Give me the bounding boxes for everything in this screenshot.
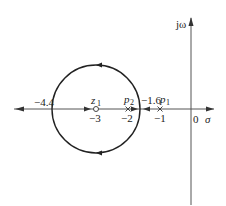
root-locus-diagram: jω σ 0 −4.4 −1.6 z 1 −3 p 2 −2 p 1 −1 — [0, 0, 226, 206]
real-axis-label: σ — [205, 113, 211, 125]
breakpoint-left-label: −4.4 — [34, 96, 54, 108]
pole1-value-label: −1 — [154, 112, 166, 124]
circle-bottom-arrow-icon — [96, 151, 102, 156]
zero-value-label: −3 — [89, 112, 101, 124]
pole2-sub-label: 2 — [130, 98, 134, 107]
arrow-p2-right-icon — [131, 107, 138, 112]
sigma-arrow-icon — [206, 107, 214, 112]
pole2-name-label: p — [123, 93, 130, 105]
origin-label: 0 — [193, 113, 199, 125]
imag-axis-label: jω — [175, 18, 186, 30]
arrow-to-zero-icon — [84, 107, 91, 112]
left-arrow-icon — [15, 107, 24, 112]
zero-name-label: z — [90, 94, 96, 106]
zero-sub-label: 1 — [97, 99, 101, 108]
pole1-name-label: p — [159, 93, 166, 105]
pole2-value-label: −2 — [121, 112, 133, 124]
breakpoint-right-label: −1.6 — [141, 94, 161, 106]
pole1-sub-label: 1 — [166, 98, 170, 107]
arrow-p1-left-icon — [143, 107, 150, 112]
jw-arrow-icon — [189, 17, 194, 26]
circle-top-arrow-icon — [96, 63, 102, 68]
